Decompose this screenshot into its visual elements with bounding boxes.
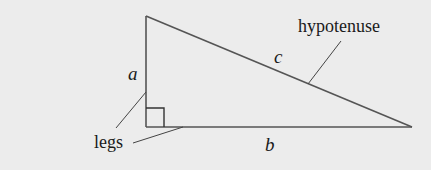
label-c: c [274, 46, 283, 67]
right-triangle-diagram: a b c hypotenuse legs [0, 0, 431, 170]
diagram-canvas: a b c hypotenuse legs [0, 0, 431, 170]
legs-leader-b [133, 127, 183, 143]
label-hypotenuse: hypotenuse [298, 16, 380, 36]
hypotenuse-leader [308, 41, 341, 84]
right-angle-marker [146, 108, 164, 127]
label-b: b [265, 134, 275, 155]
label-a: a [128, 63, 138, 84]
legs-leader-a [116, 92, 146, 128]
label-legs: legs [94, 132, 123, 152]
